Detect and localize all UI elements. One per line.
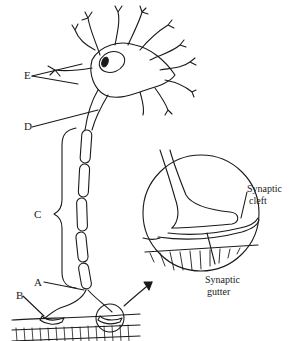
label-c: C — [34, 209, 41, 220]
label-synaptic-gutter-2: gutter — [207, 286, 230, 297]
inset-content — [143, 150, 259, 270]
label-d: D — [24, 121, 32, 132]
neuron-diagram: E D C A B Synaptic cleft Synaptic gutter — [0, 0, 300, 341]
label-b: B — [16, 290, 23, 301]
end-plate-left — [40, 316, 64, 324]
leader-e-2 — [32, 76, 78, 84]
arrowhead — [144, 282, 152, 290]
label-synaptic-cleft-2: cleft — [249, 195, 267, 206]
end-plate-right — [98, 316, 122, 324]
axon-branch-left — [45, 290, 86, 318]
label-e: E — [24, 70, 31, 81]
nucleus — [96, 48, 127, 76]
label-synaptic-gutter-1: Synaptic — [205, 274, 240, 285]
leader-d — [32, 110, 98, 127]
leader-b — [23, 296, 44, 316]
leader-a — [44, 282, 84, 290]
label-synaptic-cleft-1: Synaptic — [247, 183, 282, 194]
leader-synaptic-cleft — [241, 192, 247, 218]
myelin-sheath — [75, 130, 92, 290]
diagram-drawing — [0, 0, 300, 341]
myelin-brace — [54, 128, 76, 288]
label-a: A — [34, 277, 42, 288]
dendrites — [48, 6, 196, 115]
